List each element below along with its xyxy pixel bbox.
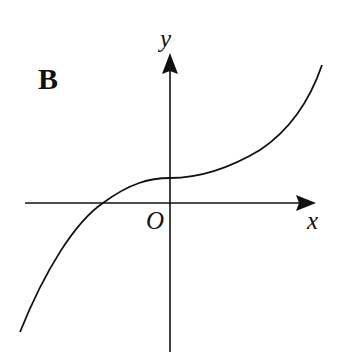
function-curve	[20, 65, 322, 332]
y-axis-arrow-icon	[162, 53, 178, 74]
x-axis-label: x	[307, 208, 318, 233]
panel-label: B	[38, 64, 58, 94]
graph-canvas	[0, 0, 347, 356]
origin-label: O	[146, 208, 164, 233]
y-axis-label: y	[160, 26, 171, 51]
